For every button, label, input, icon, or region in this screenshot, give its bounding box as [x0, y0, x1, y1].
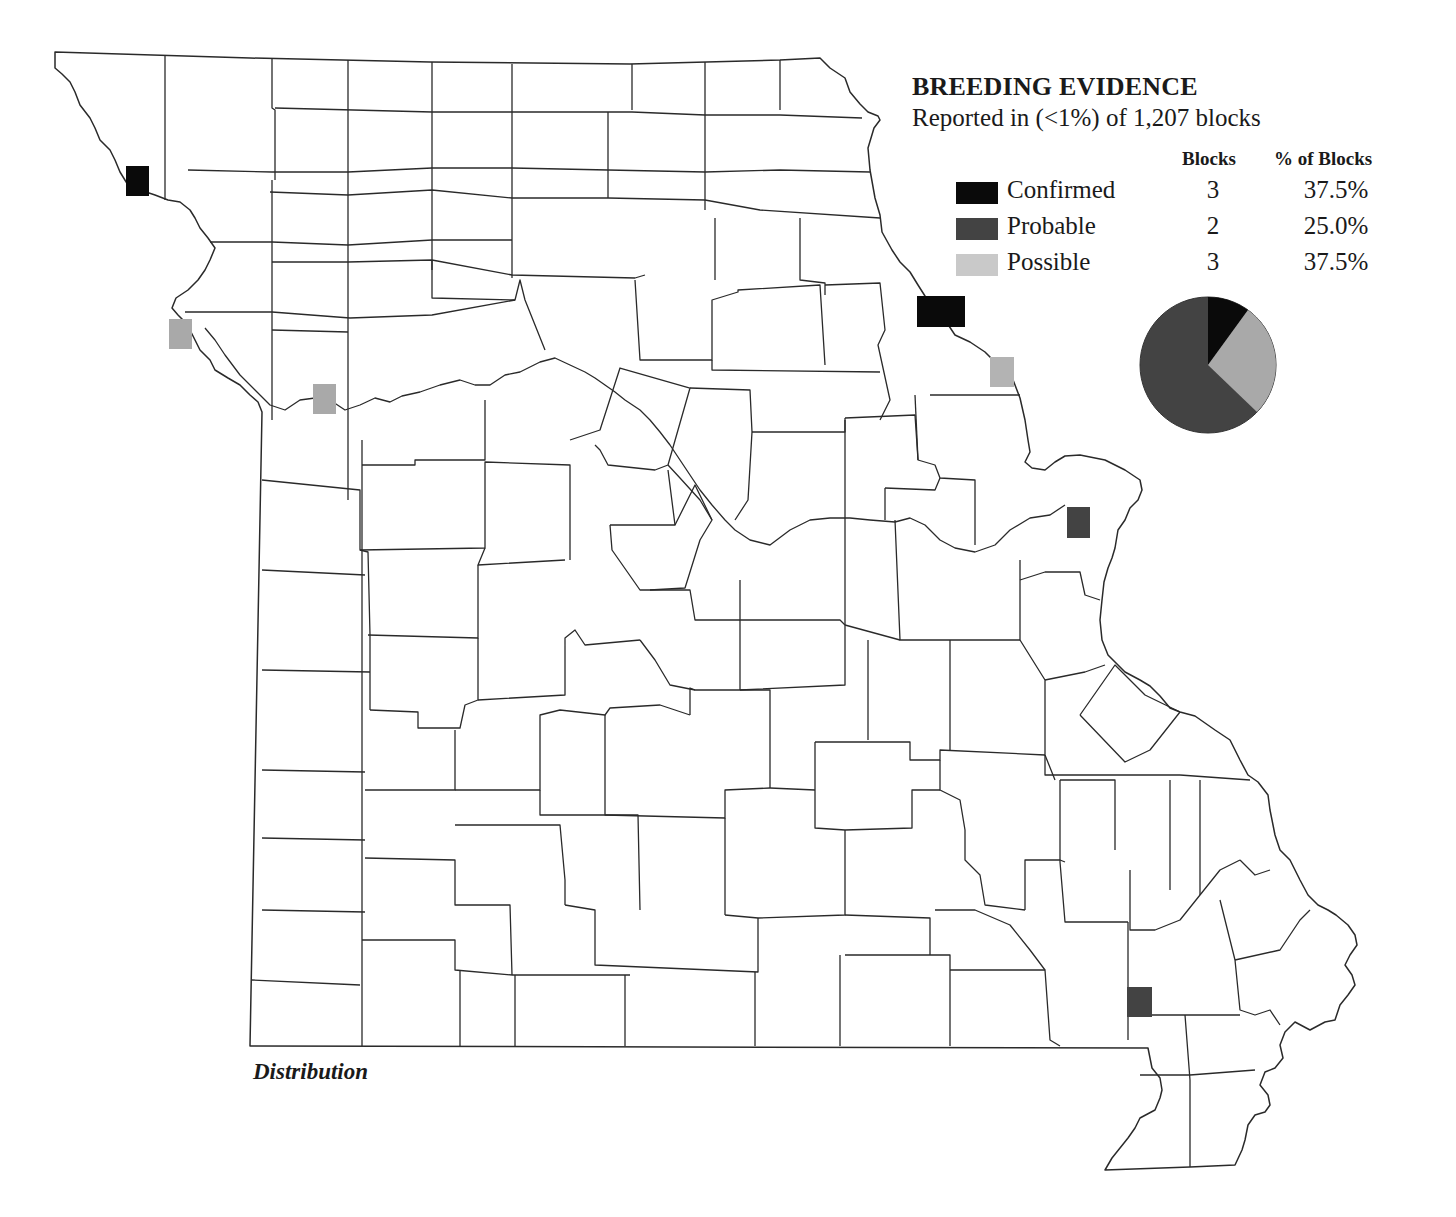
row-label: Possible [1007, 248, 1090, 276]
col-header-blocks: Blocks [1182, 148, 1236, 170]
map-caption: Distribution [253, 1059, 368, 1085]
row-blocks: 2 [1188, 212, 1238, 240]
row-blocks: 3 [1188, 248, 1238, 276]
legend: BREEDING EVIDENCE Reported in (<1%) of 1… [912, 72, 1412, 134]
marker-confirmed [917, 296, 965, 327]
marker-confirmed [126, 166, 149, 196]
row-label: Probable [1007, 212, 1096, 240]
col-header-pct: % of Blocks [1274, 148, 1372, 170]
row-pct: 37.5% [1286, 248, 1386, 276]
marker-probable [1127, 987, 1152, 1017]
swatch-confirmed [956, 182, 998, 204]
legend-title: BREEDING EVIDENCE [912, 72, 1412, 102]
marker-possible [990, 357, 1014, 387]
legend-row-possible: Possible 3 37.5% [956, 248, 1416, 284]
row-blocks: 3 [1188, 176, 1238, 204]
marker-possible [313, 384, 336, 414]
marker-possible [169, 319, 192, 349]
swatch-possible [956, 254, 998, 276]
row-pct: 25.0% [1286, 212, 1386, 240]
evidence-pie-chart [1138, 295, 1278, 435]
row-label: Confirmed [1007, 176, 1115, 204]
legend-row-probable: Probable 2 25.0% [956, 212, 1416, 248]
row-pct: 37.5% [1286, 176, 1386, 204]
swatch-probable [956, 218, 998, 240]
legend-row-confirmed: Confirmed 3 37.5% [956, 176, 1416, 212]
legend-subtitle: Reported in (<1%) of 1,207 blocks [912, 102, 1412, 134]
marker-probable [1067, 507, 1090, 538]
